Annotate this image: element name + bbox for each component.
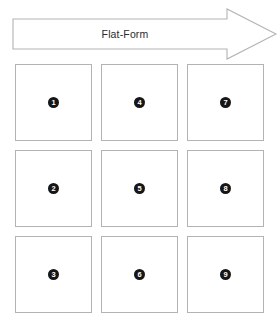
grid-cell[interactable]: 4 <box>101 64 178 141</box>
module-grid: 1 4 7 2 5 8 3 6 9 <box>15 64 264 314</box>
grid-cell[interactable]: 6 <box>101 236 178 313</box>
cell-badge: 7 <box>220 97 231 108</box>
cell-badge: 3 <box>48 269 59 280</box>
flat-form-title: Flat-Form <box>12 6 238 62</box>
cell-badge: 8 <box>220 183 231 194</box>
grid-cell[interactable]: 9 <box>187 236 264 313</box>
grid-cell[interactable]: 2 <box>15 150 92 227</box>
cell-badge: 4 <box>134 97 145 108</box>
grid-cell[interactable]: 8 <box>187 150 264 227</box>
grid-cell[interactable]: 7 <box>187 64 264 141</box>
grid-cell[interactable]: 5 <box>101 150 178 227</box>
flat-form-diagram: Flat-Form 1 4 7 2 5 8 3 6 9 <box>0 0 280 328</box>
grid-cell[interactable]: 3 <box>15 236 92 313</box>
cell-badge: 9 <box>220 269 231 280</box>
flat-form-arrow-banner: Flat-Form <box>12 6 278 62</box>
cell-badge: 1 <box>48 97 59 108</box>
cell-badge: 6 <box>134 269 145 280</box>
cell-badge: 5 <box>134 183 145 194</box>
cell-badge: 2 <box>48 183 59 194</box>
grid-cell[interactable]: 1 <box>15 64 92 141</box>
